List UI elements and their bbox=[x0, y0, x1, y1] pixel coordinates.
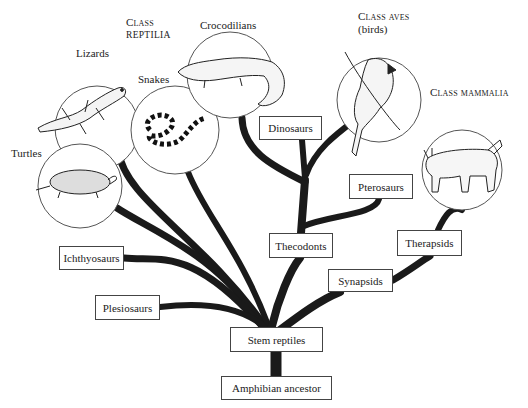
turtles-label: Turtles bbox=[11, 147, 42, 160]
phylogenetic-tree-diagram: Class reptilia Class aves (birds) Class … bbox=[0, 0, 528, 408]
class-reptilia-label: Class reptilia bbox=[126, 16, 171, 42]
box-stem-reptiles: Stem reptiles bbox=[230, 327, 323, 352]
snakes-label: Snakes bbox=[138, 73, 169, 86]
branch-synapsids bbox=[280, 292, 340, 330]
box-plesiosaurs: Plesiosaurs bbox=[95, 295, 160, 320]
branch-synapsids-to-therapsids bbox=[393, 256, 430, 280]
class-aves-line2: (birds) bbox=[358, 23, 410, 36]
branch-pterosaurs bbox=[304, 199, 379, 226]
lizards-label: Lizards bbox=[76, 47, 109, 60]
class-aves-line1: Class aves bbox=[358, 10, 410, 23]
branch-mammals bbox=[438, 209, 462, 230]
box-therapsids: Therapsids bbox=[397, 230, 462, 256]
class-mammalia-label: Class mammalia bbox=[430, 86, 509, 99]
box-amphibian-ancestor: Amphibian ancestor bbox=[221, 376, 332, 400]
box-ichthyosaurs: Ichthyosaurs bbox=[59, 246, 124, 270]
class-reptilia-line1: Class bbox=[126, 16, 171, 29]
box-synapsids: Synapsids bbox=[328, 269, 393, 292]
class-aves-label: Class aves (birds) bbox=[358, 10, 410, 36]
class-reptilia-line2: reptilia bbox=[126, 29, 171, 42]
box-thecodonts: Thecodonts bbox=[269, 233, 333, 258]
box-dinosaurs: Dinosaurs bbox=[259, 116, 322, 140]
crocodilians-label: Crocodilians bbox=[200, 19, 256, 32]
box-pterosaurs: Pterosaurs bbox=[349, 174, 413, 199]
